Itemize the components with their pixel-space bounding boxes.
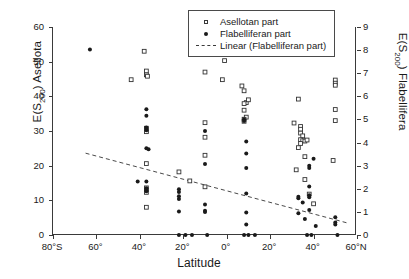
data-point-asellotan xyxy=(333,108,337,112)
legend-label-asellotan: Asellotan part xyxy=(217,16,278,27)
dashed-line-icon xyxy=(195,45,217,46)
data-point-asellotan xyxy=(188,179,192,183)
data-point-flabelliferan xyxy=(333,215,337,219)
data-point-flabelliferan xyxy=(253,233,257,237)
data-point-flabelliferan xyxy=(177,209,181,213)
x-axis-tick xyxy=(314,235,315,239)
y-axis-left-tick-label: 30 xyxy=(14,125,44,136)
data-point-asellotan xyxy=(144,69,148,73)
x-axis-tick-label: 80°S xyxy=(30,241,74,252)
x-axis-tick-label: 40° xyxy=(117,241,161,252)
y-axis-right-tick-label: 4 xyxy=(363,137,393,148)
data-point-asellotan xyxy=(203,135,207,139)
data-point-asellotan xyxy=(242,108,246,112)
legend-label-flabelliferan: Flabelliferan part xyxy=(217,28,291,39)
y-axis-left-tick xyxy=(49,131,53,132)
y-axis-left-tick-label: 40 xyxy=(14,90,44,101)
y-axis-right-tick xyxy=(357,27,361,28)
data-point-flabelliferan xyxy=(88,48,92,52)
data-point-flabelliferan xyxy=(244,152,248,156)
data-point-flabelliferan xyxy=(301,200,305,204)
x-axis-tick xyxy=(53,235,54,239)
data-point-flabelliferan xyxy=(244,166,248,170)
data-point-flabelliferan xyxy=(244,223,248,227)
data-point-asellotan xyxy=(299,127,303,131)
y-axis-left-tick xyxy=(49,27,53,28)
y-axis-left-tick-label: 10 xyxy=(14,194,44,205)
x-axis-tick xyxy=(270,235,271,239)
data-point-asellotan xyxy=(203,185,207,189)
y-axis-right-tick-label: 8 xyxy=(363,44,393,55)
data-point-flabelliferan xyxy=(335,233,339,237)
data-point-flabelliferan xyxy=(177,190,181,194)
data-point-asellotan xyxy=(299,142,303,146)
data-point-asellotan xyxy=(312,202,316,206)
data-point-flabelliferan xyxy=(144,128,148,132)
data-points-layer xyxy=(53,27,357,235)
data-point-flabelliferan xyxy=(203,202,207,206)
open-square-icon xyxy=(195,20,217,24)
y-axis-left-tick xyxy=(49,200,53,201)
y-axis-right-tick-label: 5 xyxy=(363,113,393,124)
data-point-flabelliferan xyxy=(307,195,311,199)
x-axis-tick xyxy=(357,235,358,239)
data-point-asellotan xyxy=(294,168,298,172)
data-point-asellotan xyxy=(331,159,335,163)
data-point-flabelliferan xyxy=(242,233,246,237)
series-asellotan-part xyxy=(129,49,337,209)
x-axis-tick xyxy=(183,235,184,239)
data-point-asellotan xyxy=(223,59,227,63)
y-axis-right-tick xyxy=(357,212,361,213)
legend-label-linear: Linear (Flabelliferan part) xyxy=(217,40,326,51)
y-axis-right-tick xyxy=(357,166,361,167)
y-axis-right-tick-label: 1 xyxy=(363,206,393,217)
data-point-asellotan xyxy=(144,162,148,166)
data-point-flabelliferan xyxy=(307,166,311,170)
x-axis-title: Latitude xyxy=(0,256,398,270)
plot-area xyxy=(52,27,356,235)
y-axis-right-tick-label: 6 xyxy=(363,90,393,101)
data-point-flabelliferan xyxy=(242,119,246,123)
y-axis-left-tick-label: 0 xyxy=(14,229,44,240)
data-point-asellotan xyxy=(242,102,246,106)
data-point-flabelliferan xyxy=(307,184,311,188)
data-point-asellotan xyxy=(240,84,244,88)
data-point-flabelliferan xyxy=(203,129,207,133)
x-axis-tick-label: 60° xyxy=(73,241,117,252)
y-axis-right-tick xyxy=(357,50,361,51)
y-axis-right-tick-label: 9 xyxy=(363,21,393,32)
data-point-flabelliferan xyxy=(177,233,181,237)
data-point-asellotan xyxy=(242,89,246,93)
data-point-flabelliferan xyxy=(333,223,337,227)
data-point-asellotan xyxy=(333,119,337,123)
legend-item-asellotan: Asellotan part xyxy=(195,16,326,27)
y-axis-right-tick-label: 2 xyxy=(363,183,393,194)
y-axis-right-tick xyxy=(357,119,361,120)
data-point-flabelliferan xyxy=(246,233,250,237)
y-axis-right-tick xyxy=(357,189,361,190)
data-point-asellotan xyxy=(129,78,133,82)
data-point-asellotan xyxy=(142,49,146,53)
data-point-flabelliferan xyxy=(244,210,248,214)
y-axis-right-tick xyxy=(357,143,361,144)
y-axis-left-tick xyxy=(49,96,53,97)
y-axis-left-tick xyxy=(49,166,53,167)
data-point-flabelliferan xyxy=(144,189,148,193)
data-point-asellotan xyxy=(203,153,207,157)
y-axis-left-tick-label: 50 xyxy=(14,56,44,67)
data-point-flabelliferan xyxy=(203,210,207,214)
data-point-asellotan xyxy=(333,83,337,87)
y-axis-right-tick-label: 7 xyxy=(363,67,393,78)
data-point-flabelliferan xyxy=(296,196,300,200)
filled-circle-icon xyxy=(195,32,217,36)
data-point-flabelliferan xyxy=(303,217,307,221)
data-point-flabelliferan xyxy=(205,233,209,237)
data-point-asellotan xyxy=(203,121,207,125)
y-axis-right-title: E(S200) Flabellifera xyxy=(393,2,408,162)
data-point-asellotan xyxy=(296,97,300,101)
data-point-asellotan xyxy=(247,98,251,102)
x-axis-tick-label: 20° xyxy=(160,241,204,252)
x-axis-tick xyxy=(96,235,97,239)
data-point-asellotan xyxy=(220,78,224,82)
